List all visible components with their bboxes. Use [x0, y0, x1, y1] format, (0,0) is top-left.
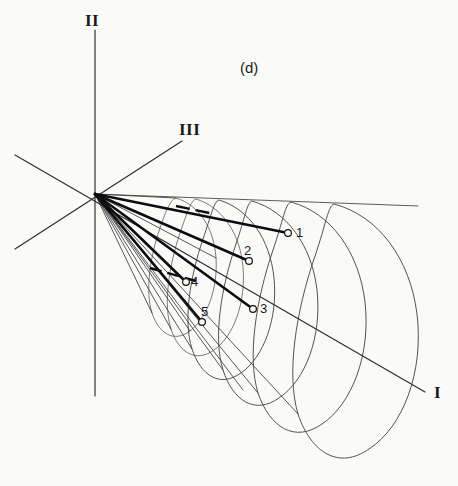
- generator-line-f: [95, 194, 192, 349]
- axis-label-II: II: [85, 12, 99, 29]
- figure-canvas: (d) II III I 1 2 3 4 5: [0, 0, 458, 486]
- point-marker-2[interactable]: [246, 258, 253, 265]
- cross-section-ring-5: [253, 202, 366, 432]
- point-label-5: 5: [201, 305, 208, 318]
- point-marker-1[interactable]: [285, 230, 292, 237]
- cross-section-ring-6: [293, 204, 419, 458]
- point-label-3: 3: [260, 302, 267, 315]
- generator-line-i: [95, 194, 298, 414]
- point-marker-4[interactable]: [183, 279, 190, 286]
- point-marker-5[interactable]: [199, 319, 206, 326]
- axis-label-I: I: [434, 384, 441, 401]
- ray-to-point-4: [95, 194, 186, 282]
- axis-label-III: III: [179, 121, 200, 138]
- cone-generators: [95, 194, 298, 414]
- point-marker-3[interactable]: [250, 306, 257, 313]
- point-label-2: 2: [244, 244, 251, 257]
- point-label-1: 1: [296, 226, 303, 239]
- point-label-4: 4: [191, 275, 198, 288]
- panel-label: (d): [240, 60, 258, 75]
- cone-diagram-svg: [0, 0, 458, 486]
- generator-line-g: [95, 194, 223, 370]
- cone-cross-sections: [149, 198, 419, 458]
